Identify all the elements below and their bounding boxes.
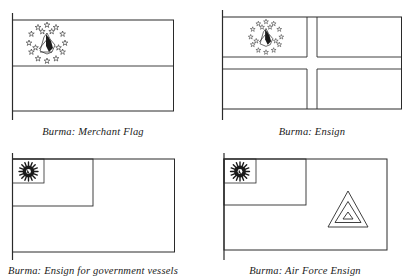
flag-field [223,17,402,109]
canton [13,159,94,206]
ensign-flag [223,10,402,120]
caption-government-ensign: Burma: Ensign for government vessels [8,265,178,276]
caption-air-force-ensign: Burma: Air Force Ensign [249,265,361,276]
caption-ensign: Burma: Ensign [279,126,345,137]
star-ring-emblem-icon [26,22,68,63]
sun-emblem-icon [19,162,38,181]
flags-plate [0,0,411,277]
triangle-roundel-icon [328,191,368,227]
canton [224,159,306,205]
caption-merchant-flag: Burma: Merchant Flag [42,126,144,137]
star-ring-emblem-icon [248,19,283,54]
sun-emblem-icon [231,162,250,181]
flag-field [13,159,175,252]
flag-field [13,20,174,111]
flag-field [224,159,387,250]
air-force-ensign-flag [224,153,387,260]
government-ensign-flag [13,153,175,260]
merchant-flag [13,13,174,120]
cross [223,17,402,109]
